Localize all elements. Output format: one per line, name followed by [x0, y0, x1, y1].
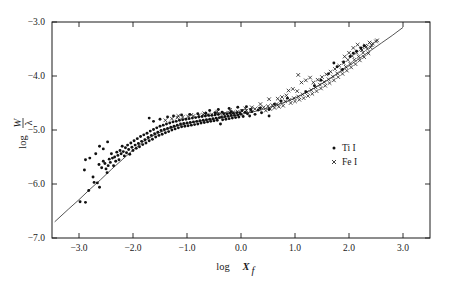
data-point-ti-i	[352, 52, 355, 55]
data-point-ti-i	[139, 135, 142, 138]
data-point-ti-i	[200, 122, 203, 125]
x-axis-label-log: log	[216, 261, 230, 272]
curve-of-growth-plot: −3.0−2.0−1.00.01.02.03.0 −3.0−4.0−5.0−6.…	[0, 0, 460, 284]
data-point-ti-i	[178, 119, 181, 122]
data-point-ti-i	[127, 148, 130, 151]
data-point-ti-i	[182, 122, 185, 125]
data-point-ti-i	[121, 145, 124, 148]
data-point-ti-i	[116, 154, 119, 157]
data-point-ti-i	[242, 115, 245, 118]
data-point-ti-i	[115, 151, 118, 154]
data-point-ti-i	[208, 109, 211, 112]
x-tick-label: 2.0	[343, 243, 355, 253]
data-point-ti-i	[159, 125, 162, 128]
data-point-ti-i	[136, 137, 139, 140]
data-point-ti-i	[114, 160, 117, 163]
data-point-ti-i	[109, 161, 112, 164]
data-point-ti-i	[181, 118, 184, 121]
data-point-ti-i	[213, 119, 216, 122]
data-point-ti-i	[254, 113, 257, 116]
x-tick-label: −3.0	[70, 243, 87, 253]
data-point-ti-i	[133, 139, 136, 142]
data-point-ti-i	[152, 120, 155, 123]
data-point-ti-i	[119, 149, 122, 152]
data-point-ti-i	[84, 201, 87, 204]
data-point-ti-i	[268, 115, 271, 118]
data-point-ti-i	[159, 118, 162, 121]
data-point-ti-i	[153, 132, 156, 135]
x-tick-label: 1.0	[289, 243, 301, 253]
data-point-ti-i	[186, 122, 189, 125]
data-point-ti-i	[118, 158, 121, 161]
data-point-ti-i	[175, 120, 178, 123]
data-point-ti-i	[138, 145, 141, 148]
figure-background	[0, 0, 460, 284]
data-point-ti-i	[224, 118, 227, 121]
data-point-ti-i	[177, 126, 180, 129]
data-point-ti-i	[260, 111, 263, 114]
data-point-ti-i	[130, 146, 133, 149]
data-point-ti-i	[169, 126, 172, 129]
data-point-ti-i	[166, 127, 169, 130]
x-tick-label: −2.0	[124, 243, 141, 253]
data-point-ti-i	[148, 139, 151, 142]
legend-label-ti-i: Ti I	[342, 143, 356, 153]
data-point-ti-i	[157, 134, 160, 137]
data-point-ti-i	[98, 145, 101, 148]
data-point-ti-i	[195, 120, 198, 123]
data-point-ti-i	[180, 125, 183, 128]
data-point-ti-i	[190, 124, 193, 127]
data-point-ti-i	[93, 181, 96, 184]
data-point-ti-i	[162, 124, 165, 127]
data-point-ti-i	[113, 156, 116, 159]
data-point-ti-i	[179, 123, 182, 126]
data-point-ti-i	[163, 128, 166, 131]
data-point-ti-i	[120, 152, 123, 155]
data-point-ti-i	[184, 118, 187, 121]
data-point-ti-i	[149, 130, 152, 133]
data-point-ti-i	[161, 133, 164, 136]
y-tick-label: −3.0	[28, 17, 45, 27]
data-point-ti-i	[220, 116, 223, 119]
data-point-ti-i	[234, 116, 237, 119]
data-point-ti-i	[151, 138, 154, 141]
data-point-ti-i	[94, 152, 97, 155]
data-point-ti-i	[147, 136, 150, 139]
x-tick-label: 0.0	[235, 243, 247, 253]
data-point-ti-i	[231, 117, 234, 120]
data-point-ti-i	[236, 106, 239, 109]
data-point-ti-i	[170, 129, 173, 132]
data-point-ti-i	[107, 164, 110, 167]
data-point-ti-i	[228, 117, 231, 120]
figure-container: −3.0−2.0−1.00.01.02.03.0 −3.0−4.0−5.0−6.…	[0, 0, 460, 284]
y-axis-label-numerator: W	[12, 117, 23, 127]
data-point-ti-i	[134, 144, 137, 147]
data-point-ti-i	[128, 153, 131, 156]
x-tick-label: −1.0	[178, 243, 195, 253]
data-point-ti-i	[174, 127, 177, 130]
y-tick-label: −6.0	[28, 179, 45, 189]
data-point-ti-i	[146, 132, 149, 135]
data-point-ti-i	[83, 169, 86, 172]
data-point-ti-i	[176, 124, 179, 127]
data-point-ti-i	[123, 154, 126, 157]
data-point-ti-i	[145, 142, 148, 145]
data-point-ti-i	[154, 136, 157, 139]
data-point-ti-i	[106, 140, 109, 143]
y-tick-label: −5.0	[28, 125, 45, 135]
data-point-ti-i	[192, 120, 195, 123]
x-axis-label-symbol: X	[241, 261, 250, 272]
data-point-ti-i	[132, 149, 135, 152]
data-point-ti-i	[165, 123, 168, 126]
data-point-ti-i	[164, 131, 167, 134]
data-point-ti-i	[193, 123, 196, 126]
data-point-ti-i	[88, 157, 91, 160]
data-point-ti-i	[152, 128, 155, 131]
data-point-ti-i	[240, 113, 243, 116]
data-point-ti-i	[122, 150, 125, 153]
data-point-ti-i	[203, 121, 206, 124]
data-point-ti-i	[126, 144, 129, 147]
y-axis-label-log: log	[17, 135, 28, 149]
data-point-ti-i	[108, 158, 111, 161]
legend-label-fe-i: Fe I	[342, 157, 357, 167]
